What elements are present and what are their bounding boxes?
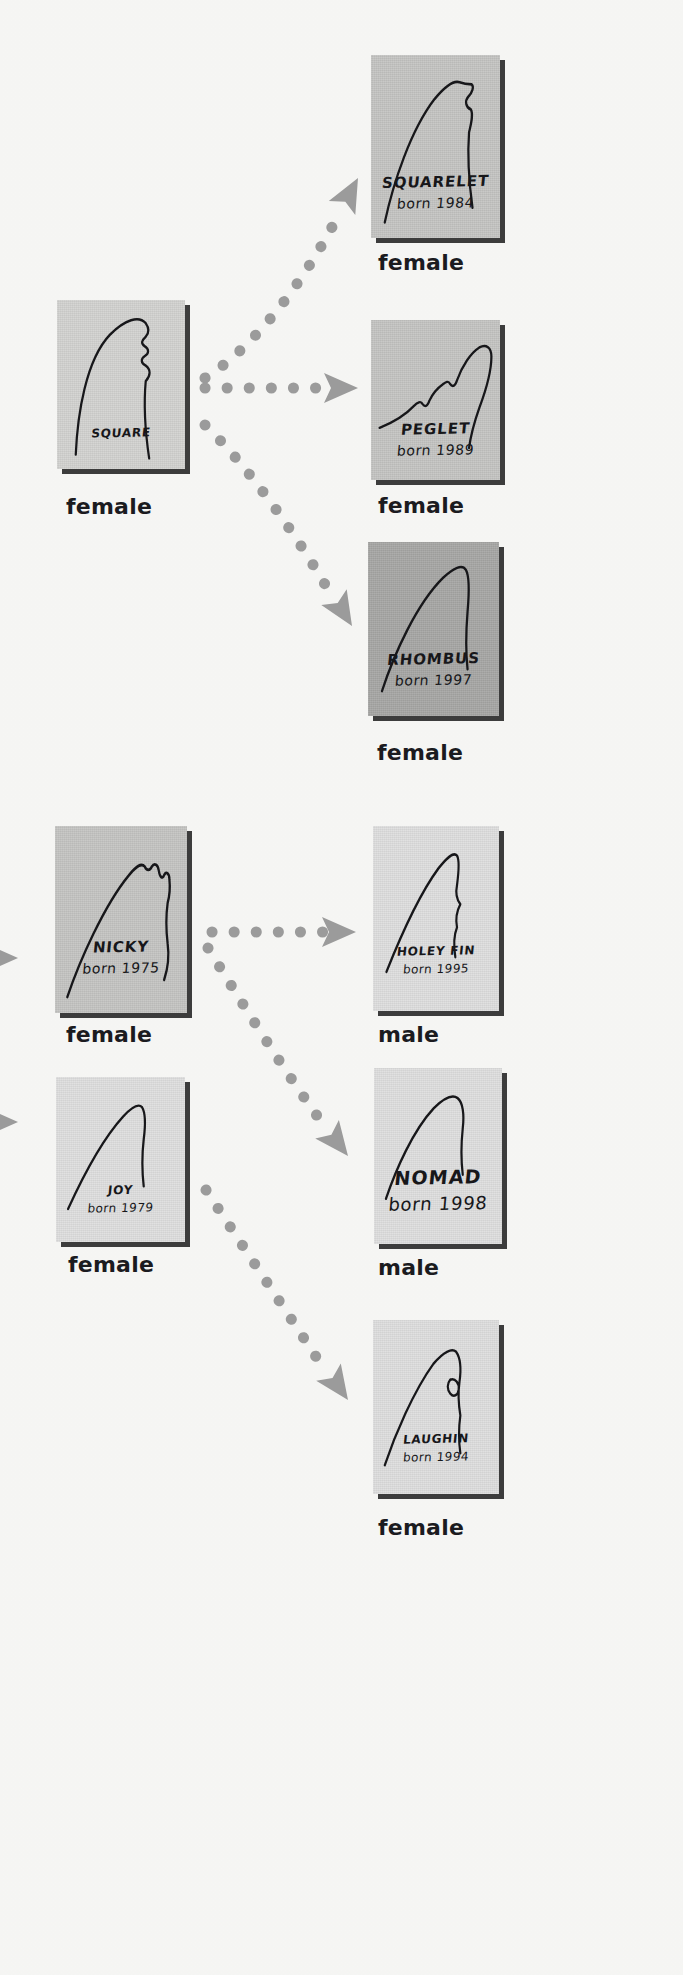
id-card-nicky[interactable]: NICKYborn 1975 [55, 826, 187, 1013]
dorsal-fin-tracing-squarelet [371, 55, 500, 238]
arrow-square-to-rhombus [205, 425, 365, 634]
id-card-joy[interactable]: JOYborn 1979 [56, 1077, 185, 1242]
id-card-squarelet[interactable]: SQUARELETborn 1984 [371, 55, 500, 238]
dorsal-fin-tracing-rhombus [368, 542, 499, 716]
dorsal-fin-tracing-joy [56, 1077, 185, 1242]
arrow-into-joy [0, 1107, 18, 1137]
dorsal-fin-tracing-square [57, 300, 185, 469]
sex-label-squarelet: female [378, 250, 464, 275]
arrow-head-square-to-rhombus [321, 589, 364, 634]
id-card-holeyfin[interactable]: HOLEY FINborn 1995 [373, 826, 499, 1011]
dorsal-fin-tracing-laughin [373, 1320, 499, 1494]
id-card-rhombus[interactable]: RHOMBUSborn 1997 [368, 542, 499, 716]
arrow-into-nicky [0, 943, 18, 973]
id-card-nomad[interactable]: NOMADborn 1998 [374, 1068, 502, 1244]
sex-label-nomad: male [378, 1255, 439, 1280]
dorsal-fin-tracing-nicky [55, 826, 187, 1013]
arrow-head-into-joy [0, 1107, 18, 1137]
id-card-laughin[interactable]: LAUGHINborn 1994 [373, 1320, 499, 1494]
id-card-square[interactable]: SQUARE [57, 300, 185, 469]
arrow-square-to-squarelet [205, 171, 371, 378]
arrow-nicky-to-holeyfin [212, 917, 356, 947]
dorsal-fin-tracing-nomad [374, 1068, 502, 1244]
diagram-canvas: SQUAREfemaleSQUARELETborn 1984femalePEGL… [0, 0, 683, 1975]
sex-label-laughin: female [378, 1515, 464, 1540]
arrow-nicky-to-nomad [208, 948, 360, 1165]
arrow-head-square-to-squarelet [329, 171, 371, 215]
arrow-head-joy-to-laughin [316, 1364, 360, 1409]
arrow-head-square-to-peglet [324, 373, 358, 403]
sex-label-holeyfin: male [378, 1022, 439, 1047]
sex-label-rhombus: female [377, 740, 463, 765]
dorsal-fin-tracing-holeyfin [373, 826, 499, 1011]
dorsal-fin-tracing-peglet [371, 320, 500, 480]
sex-label-peglet: female [378, 493, 464, 518]
id-card-peglet[interactable]: PEGLETborn 1989 [371, 320, 500, 480]
sex-label-nicky: female [66, 1022, 152, 1047]
arrow-head-nicky-to-nomad [315, 1120, 360, 1165]
arrow-head-into-nicky [0, 943, 18, 973]
arrow-joy-to-laughin [206, 1190, 360, 1409]
arrow-head-nicky-to-holeyfin [322, 917, 356, 947]
sex-label-joy: female [68, 1252, 154, 1277]
sex-label-square: female [66, 494, 152, 519]
arrow-square-to-peglet [205, 373, 358, 403]
